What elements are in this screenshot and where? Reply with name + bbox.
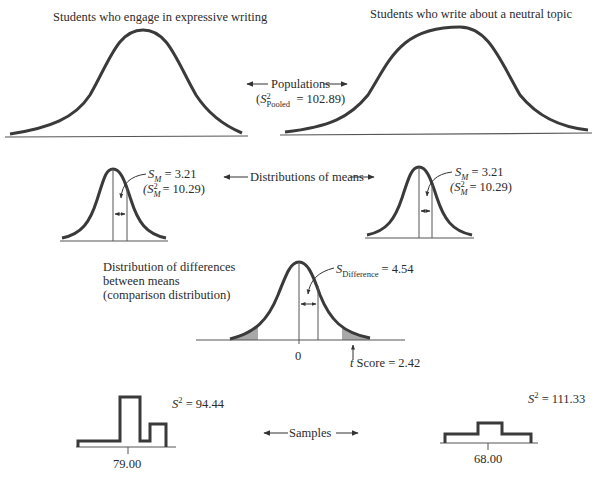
sd-value: = 4.54 [382, 262, 414, 276]
sd-difference-label: SDifference = 4.54 [336, 262, 414, 276]
difference-title-line-3: (comparison distribution) [103, 288, 230, 302]
sample-left-mean: 79.00 [113, 457, 141, 471]
sample-right-variance: S2 = 111.33 [528, 392, 585, 406]
sample-right-histogram [440, 423, 538, 450]
var-symbol: (S [143, 182, 153, 196]
t-score-label: t Score = 2.42 [350, 356, 420, 370]
means-right-var: (S2M= 10.29) [450, 180, 512, 194]
population-left-title: Students who engage in expressive writin… [53, 10, 267, 24]
sample-left-variance: S2 = 94.44 [172, 397, 224, 411]
sm-value: = 3.21 [164, 167, 196, 181]
sm-value: = 3.21 [471, 165, 503, 179]
means-left-sm: SM = 3.21 [148, 167, 197, 181]
diagram-canvas [0, 0, 597, 480]
distributions-of-means-label: Distributions of means [250, 170, 364, 184]
means-left-var: (S2M= 10.29) [143, 182, 205, 196]
means-right-sm: SM = 3.21 [455, 165, 504, 179]
variance-value: = 94.44 [186, 397, 224, 411]
sd-sub: Difference [342, 269, 378, 279]
sample-right-mean: 68.00 [474, 452, 502, 466]
var-symbol: (S [450, 180, 460, 194]
populations-label: Populations [271, 77, 330, 91]
samples-label: Samples [289, 426, 331, 440]
variance-sup: 2 [534, 390, 538, 400]
pooled-variance-value: = 102.89) [296, 92, 345, 106]
population-right-title: Students who write about a neutral topic [370, 7, 572, 21]
difference-title-line-2: between means [103, 274, 180, 288]
sample-left-histogram [76, 397, 176, 454]
var-value: = 10.29) [469, 180, 511, 194]
variance-sup: 2 [178, 395, 182, 405]
difference-title-line-1: Distribution of differences [103, 260, 235, 274]
t-prefix: t [350, 356, 353, 370]
t-value: Score = 2.42 [357, 356, 421, 370]
variance-value: = 111.33 [542, 392, 586, 406]
pooled-variance-label: (S2Pooled= 102.89) [256, 92, 345, 106]
zero-tick-label: 0 [295, 349, 301, 363]
var-value: = 10.29) [162, 182, 204, 196]
population-left-curve [5, 30, 248, 137]
